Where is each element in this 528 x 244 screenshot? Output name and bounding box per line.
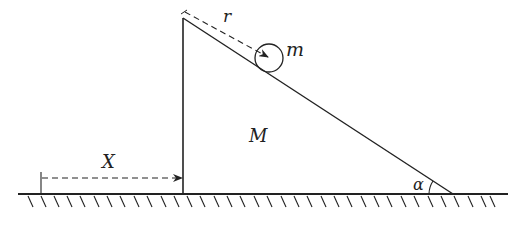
x-dimension — [41, 172, 182, 194]
label-X: X — [100, 151, 116, 172]
label-m: m — [286, 38, 304, 60]
wedge — [183, 18, 453, 194]
wedge-diagram: r m M X α — [0, 0, 528, 244]
label-r: r — [223, 6, 232, 26]
ground — [18, 194, 508, 207]
label-alpha: α — [413, 175, 424, 194]
label-M: M — [248, 125, 268, 146]
angle-arc — [429, 181, 433, 194]
ground-hatching — [28, 196, 495, 207]
ball — [255, 44, 283, 72]
